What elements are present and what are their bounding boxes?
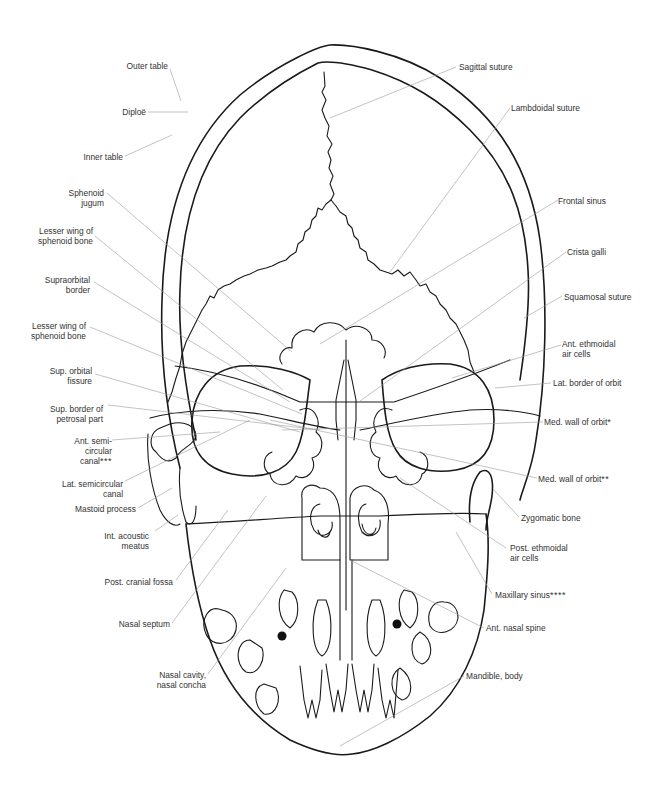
- sagittal-suture-line: [322, 72, 334, 200]
- label-med-wall-orbit-1: Med. wall of orbit*: [544, 417, 611, 427]
- label-sagittal-suture: Sagittal suture: [459, 62, 513, 72]
- ethmoid-cells-right: [370, 409, 428, 485]
- label-ant-semicircular-canal: Ant. semi- circular canal***: [30, 436, 112, 466]
- teeth-and-tooth-buds: [204, 560, 458, 718]
- lambdoidal-suture-line-right: [331, 200, 474, 372]
- label-lat-border-orbit: Lat. border of orbit: [553, 378, 621, 388]
- concha-left: [311, 504, 333, 537]
- label-mandible-body: Mandible, body: [466, 671, 523, 681]
- label-squamosal-suture: Squamosal suture: [564, 292, 632, 302]
- label-post-cranial-fossa: Post. cranial fossa: [80, 577, 173, 587]
- concha-right: [359, 504, 381, 536]
- zygomatic-right: [469, 470, 492, 530]
- label-lesser-wing-sphenoid-2: Lesser wing of sphenoid bone: [10, 321, 86, 341]
- label-lesser-wing-sphenoid-1: Lesser wing of sphenoid bone: [20, 226, 93, 246]
- label-inner-table: Inner table: [60, 152, 123, 162]
- label-ant-nasal-spine: Ant. nasal spine: [486, 623, 546, 633]
- label-mastoid-process: Mastoid process: [40, 504, 136, 514]
- label-frontal-sinus: Frontal sinus: [558, 196, 606, 206]
- label-sphenoid-jugum: Sphenoid jugum: [50, 188, 104, 208]
- outer-table-outline: [162, 45, 545, 500]
- label-sup-border-petrosal: Sup. border of petrosal part: [20, 404, 103, 424]
- label-lambdoidal-suture: Lambdoidal suture: [511, 103, 580, 113]
- label-zygomatic-bone: Zygomatic bone: [521, 513, 581, 523]
- label-post-ethmoidal-air-cells: Post. ethmoidal air cells: [510, 543, 568, 563]
- mental-foramen-left: [278, 632, 287, 641]
- mental-foramen-right: [393, 620, 402, 629]
- frontal-sinus-outline: [280, 323, 385, 364]
- inner-table-outline: [180, 62, 529, 440]
- label-ant-ethmoidal-air-cells: Ant. ethmoidal air cells: [562, 339, 616, 359]
- nasal-cavity-right: [350, 486, 388, 560]
- mandible-outline: [186, 514, 488, 755]
- skull-pa-diagram: Outer table Diploë Inner table Sphenoid …: [0, 0, 661, 798]
- maxilla-line: [186, 513, 486, 524]
- label-med-wall-orbit-2: Med. wall of orbit**: [538, 474, 609, 484]
- nasal-cavity-left: [302, 485, 340, 560]
- label-crista-galli: Crista galli: [567, 247, 606, 257]
- label-outer-table: Outer table: [80, 61, 168, 71]
- label-diploe: Diploë: [80, 107, 146, 117]
- label-sup-orbital-fissure: Sup. orbital fissure: [20, 366, 92, 386]
- label-nasal-cavity-concha: Nasal cavity, nasal concha: [130, 670, 206, 690]
- label-supraorbital-border: Supraorbital border: [20, 275, 90, 295]
- lambdoidal-suture-line: [168, 200, 331, 402]
- skull-drawing: [0, 0, 661, 798]
- zygomatic-left: [179, 468, 196, 524]
- crista-galli-outline: [336, 340, 356, 610]
- label-int-acoustic-meatus: Int. acoustic meatus: [80, 531, 149, 551]
- ethmoid-cells-left: [264, 409, 322, 485]
- label-lat-semicircular-canal: Lat. semicircular canal: [30, 479, 123, 499]
- right-orbit-outline: [382, 364, 494, 471]
- label-maxillary-sinus: Maxillary sinus****: [495, 590, 566, 600]
- label-nasal-septum: Nasal septum: [100, 619, 170, 629]
